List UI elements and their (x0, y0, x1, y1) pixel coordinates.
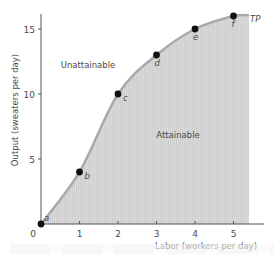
point-label: d (155, 58, 161, 68)
x-tick-label: 5 (231, 229, 237, 239)
attainable-region (41, 15, 249, 224)
y-tick-label: 10 (24, 90, 36, 100)
data-point (115, 91, 122, 98)
origin-label: 0 (30, 229, 36, 239)
point-label: e (193, 32, 198, 42)
point-label: c (123, 93, 128, 103)
total-product-chart: 51015 12345 abcdef 0 Output (sweaters pe… (0, 0, 280, 260)
x-tick-label: 4 (192, 229, 198, 239)
x-tick-label: 3 (154, 229, 160, 239)
figure-caption-blur (10, 244, 274, 254)
tp-curve-label: TP (250, 14, 261, 24)
y-ticks: 51015 (24, 25, 41, 165)
y-tick-label: 15 (24, 25, 35, 35)
point-label: b (85, 171, 90, 181)
y-tick-label: 5 (29, 155, 35, 165)
point-label: a (44, 213, 49, 223)
y-axis-label: Output (sweaters per day) (10, 54, 20, 166)
x-tick-label: 1 (77, 229, 83, 239)
attainable-label: Attainable (156, 130, 199, 140)
unattainable-label: Unattainable (61, 60, 116, 70)
x-tick-label: 2 (115, 229, 121, 239)
data-point (76, 169, 83, 176)
